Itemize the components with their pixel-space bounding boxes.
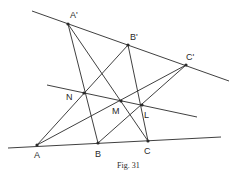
label-c: C: [144, 146, 151, 156]
segment-c-prime-a: [37, 65, 186, 145]
point-b: [96, 141, 99, 144]
label-b: B: [95, 149, 101, 159]
point-c: [146, 139, 149, 142]
point-l: [140, 103, 143, 106]
geometry-figure: A' B' C' N M L A B C Fig. 31: [0, 0, 233, 175]
label-a-prime: A': [70, 10, 78, 20]
point-a-prime: [66, 22, 69, 25]
label-c-prime: C': [186, 52, 194, 62]
label-n: N: [66, 92, 73, 102]
segment-b-prime-a: [37, 45, 128, 145]
point-n: [82, 91, 85, 94]
point-b-prime: [126, 43, 129, 46]
point-a: [35, 143, 38, 146]
point-m: [119, 99, 122, 102]
line-a-b-c: [8, 137, 221, 148]
line-a-prime-b-prime-c-prime: [32, 11, 229, 81]
label-m: M: [112, 106, 120, 116]
point-c-prime: [184, 63, 187, 66]
label-a: A: [34, 150, 40, 160]
label-b-prime: B': [130, 32, 138, 42]
figure-caption: Fig. 31: [117, 161, 140, 170]
label-l: L: [144, 110, 149, 120]
